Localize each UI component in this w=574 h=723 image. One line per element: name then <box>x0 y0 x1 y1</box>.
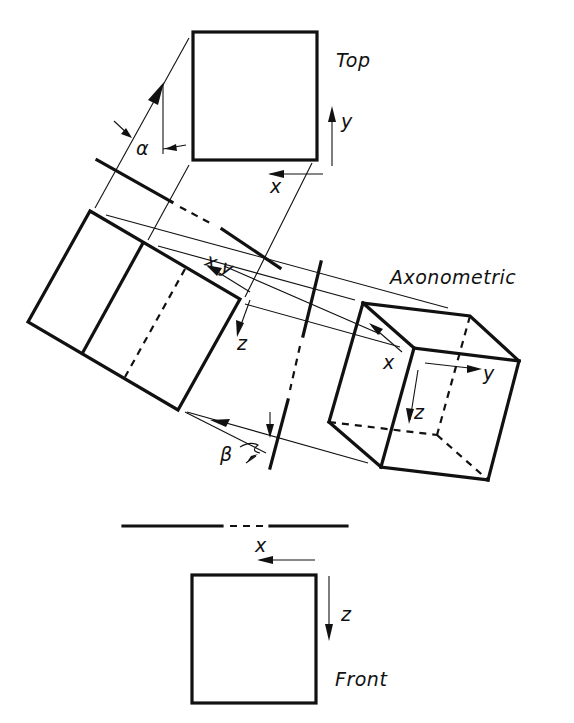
beta-label: β <box>219 443 232 465</box>
auxiliary-view <box>28 211 250 410</box>
projector-3 <box>245 304 400 347</box>
top-y-label: y <box>340 110 353 132</box>
axonometric-view-label: Axonometric <box>388 266 516 288</box>
alpha-label: α <box>136 137 149 159</box>
top-view-label: Top <box>336 49 370 71</box>
top-view-square <box>193 32 317 160</box>
aux-xy-label: x,y <box>201 248 237 280</box>
aux-view-divider-hidden <box>125 269 185 377</box>
cube-top-front-edge <box>414 348 519 361</box>
alpha-arrowhead-right-icon <box>165 144 177 151</box>
fold-line-2-solid-b <box>270 400 288 468</box>
axonometric-view <box>329 303 519 480</box>
sight-arrowhead-icon <box>148 82 164 105</box>
top-x-label: x <box>269 175 282 197</box>
fold-line-2-dashed <box>290 346 300 390</box>
front-z-label: z <box>340 603 352 625</box>
sight-line-upper <box>95 38 189 208</box>
projector-1 <box>106 215 448 308</box>
cube-bottom-left-edge <box>329 422 381 467</box>
axo-z-arrowhead-icon <box>406 408 414 424</box>
front-view-label: Front <box>335 668 388 690</box>
cube-hidden-vertical <box>437 316 470 435</box>
axo-y-arrowhead-icon <box>467 365 482 373</box>
axo-x-label: x <box>382 351 395 373</box>
front-view <box>192 556 333 703</box>
front-z-arrowhead-icon <box>325 624 333 641</box>
projection-diagram: Top y x α x,y z β Axonometric x y z x z … <box>0 0 574 723</box>
fold-line-1-dashed <box>180 207 214 225</box>
aux-view-divider-solid <box>83 243 143 352</box>
axo-z-label: z <box>413 401 425 423</box>
top-projector-left <box>148 165 189 240</box>
axo-y-label: y <box>482 362 495 384</box>
aux-z-label: z <box>236 332 248 354</box>
fold-line-1-solid-a <box>97 160 172 202</box>
front-x-arrowhead-icon <box>257 556 273 564</box>
beta-arrowhead-lower-icon <box>247 454 258 462</box>
front-x-label: x <box>254 534 267 556</box>
top-y-arrowhead-icon <box>328 106 336 122</box>
cube-left-vertical <box>329 303 363 422</box>
cube-bottom-front-edge <box>381 467 488 480</box>
front-view-square <box>192 575 316 703</box>
aux-view-outline <box>28 211 240 410</box>
cube-hidden-bottom-back <box>329 422 437 435</box>
